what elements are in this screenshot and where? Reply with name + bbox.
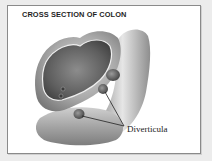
colon-cross-section-illustration: [0, 0, 212, 161]
diverticula-label: Diverticula: [127, 124, 167, 134]
diverticulum-pouch: [74, 109, 85, 119]
diverticulum-pouch: [106, 69, 120, 81]
diverticulum-opening: [61, 87, 65, 91]
diverticulum-opening: [59, 94, 63, 98]
diverticulum-pouch: [98, 84, 108, 94]
